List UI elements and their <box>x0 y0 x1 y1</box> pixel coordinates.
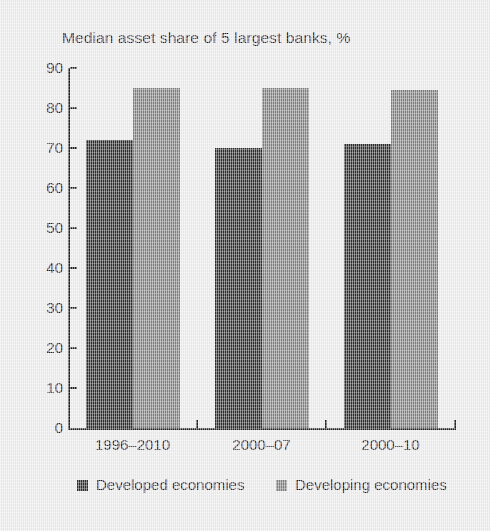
bar-developed-1 <box>215 148 262 428</box>
legend-item-developed[interactable]: Developed economies <box>77 477 244 493</box>
legend-swatch-icon <box>77 480 88 491</box>
y-tick-mark <box>70 67 77 69</box>
y-tick-mark <box>70 147 77 149</box>
bar-developing-1 <box>262 88 309 428</box>
legend-swatch-icon <box>276 480 287 491</box>
y-tick-label: 10 <box>35 380 63 395</box>
y-tick-label: 60 <box>35 180 63 195</box>
y-tick-mark <box>70 347 77 349</box>
x-axis-line <box>68 428 456 430</box>
x-tick-mark <box>196 420 198 428</box>
y-tick-label: 20 <box>35 340 63 355</box>
y-tick-label: 30 <box>35 300 63 315</box>
y-tick-mark <box>70 107 77 109</box>
y-tick-mark <box>70 267 77 269</box>
x-axis-label-2: 2000–10 <box>326 436 455 453</box>
bar-chart-figure: Median asset share of 5 largest banks, %… <box>0 0 490 531</box>
y-tick-label: 80 <box>35 100 63 115</box>
x-axis-label-0: 1996–2010 <box>68 436 197 453</box>
y-axis-line <box>68 68 70 430</box>
y-tick-mark <box>70 227 77 229</box>
legend-label: Developing economies <box>295 477 447 493</box>
y-tick-label: 70 <box>35 140 63 155</box>
y-tick-mark <box>70 307 77 309</box>
legend-item-developing[interactable]: Developing economies <box>276 477 447 493</box>
y-tick-label: 0 <box>35 420 63 435</box>
bar-developing-0 <box>133 88 180 428</box>
x-tick-mark <box>325 420 327 428</box>
y-tick-label: 50 <box>35 220 63 235</box>
y-tick-0: 0 <box>28 427 77 429</box>
plot-area: 9080706050403020100 1996–20102000–072000… <box>0 0 490 531</box>
y-tick-label: 90 <box>35 60 63 75</box>
y-tick-label: 40 <box>35 260 63 275</box>
x-tick-mark <box>454 420 456 428</box>
y-tick-mark <box>70 187 77 189</box>
bar-developing-2 <box>391 90 438 428</box>
chart-legend: Developed economiesDeveloping economies <box>68 477 468 501</box>
x-axis-label-1: 2000–07 <box>197 436 326 453</box>
legend-label: Developed economies <box>96 477 244 493</box>
y-tick-mark <box>70 387 77 389</box>
bar-developed-0 <box>86 140 133 428</box>
bar-developed-2 <box>344 144 391 428</box>
